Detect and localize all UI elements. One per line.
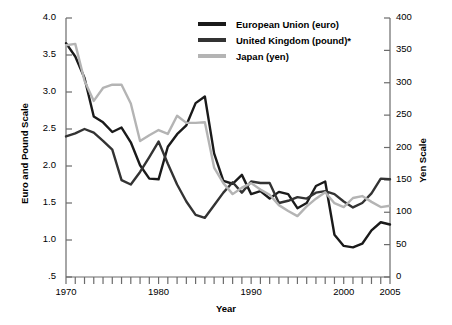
- series-line: [66, 43, 390, 247]
- y-axis-right-tick-label: 300: [396, 76, 430, 87]
- legend-item: Japan (yen): [198, 48, 408, 64]
- x-axis-tick-label: 1990: [229, 286, 273, 297]
- chart-legend: European Union (euro) United Kingdom (po…: [198, 16, 408, 64]
- x-axis-tick-label: 2000: [322, 286, 366, 297]
- y-axis-right-tick-label: 400: [396, 11, 430, 22]
- y-axis-right-tick-label: 350: [396, 43, 430, 54]
- legend-label-eu: European Union (euro): [236, 19, 339, 30]
- x-axis-title: Year: [0, 303, 452, 314]
- y-axis-right-tick-label: 100: [396, 205, 430, 216]
- x-axis-tick-label: 2005: [368, 286, 412, 297]
- y-axis-right-tick-label: 50: [396, 238, 430, 249]
- legend-swatch-eu: [198, 22, 226, 26]
- x-axis-tick-label: 1980: [137, 286, 181, 297]
- y-axis-left-ticks: [66, 18, 72, 277]
- y-axis-right-tick-label: 0: [396, 270, 430, 281]
- x-axis-ticks: [66, 277, 390, 284]
- y-axis-left-tick-label: 3.0: [22, 85, 56, 96]
- y-axis-right-tick-label: 200: [396, 141, 430, 152]
- y-axis-left-tick-label: .5: [22, 270, 56, 281]
- legend-swatch-uk: [198, 38, 226, 42]
- y-axis-left-tick-label: 1.0: [22, 233, 56, 244]
- y-axis-left-tick-label: 3.5: [22, 48, 56, 59]
- legend-label-uk: United Kingdom (pound)*: [236, 35, 351, 46]
- y-axis-left-tick-label: 2.5: [22, 122, 56, 133]
- legend-item: European Union (euro): [198, 16, 408, 32]
- x-axis-tick-label: 1970: [44, 286, 88, 297]
- data-series-group: [66, 43, 390, 247]
- y-axis-left-tick-label: 2.0: [22, 159, 56, 170]
- y-axis-left-tick-label: 4.0: [22, 11, 56, 22]
- series-line: [66, 129, 390, 218]
- y-axis-right-tick-label: 150: [396, 173, 430, 184]
- y-axis-right-tick-label: 250: [396, 108, 430, 119]
- legend-swatch-japan: [198, 54, 226, 58]
- legend-item: United Kingdom (pound)*: [198, 32, 408, 48]
- legend-label-japan: Japan (yen): [236, 51, 289, 62]
- y-axis-right-title: Yen Scale: [417, 106, 428, 216]
- y-axis-left-tick-label: 1.5: [22, 196, 56, 207]
- chart-container: Euro and Pound Scale Yen Scale Year Euro…: [0, 0, 452, 325]
